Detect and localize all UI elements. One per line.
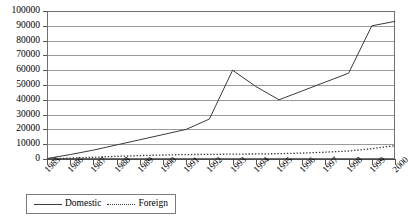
y-axis-tick-label: 10000	[16, 139, 40, 149]
y-axis-tick-label: 70000	[16, 51, 40, 61]
series-layer	[47, 11, 395, 159]
legend-swatch-dotted-icon	[107, 200, 135, 208]
series-line-domestic	[47, 21, 395, 158]
y-axis-tick-label: 100000	[12, 6, 41, 16]
legend-label: Foreign	[138, 199, 168, 209]
y-axis-tick-label: 40000	[16, 95, 40, 105]
y-axis: 1000009000080000700006000050000400003000…	[0, 0, 45, 170]
legend-item-foreign[interactable]: Foreign	[107, 199, 168, 209]
y-axis-tick-label: 0	[35, 154, 40, 164]
y-axis-tick-label: 30000	[16, 110, 40, 120]
legend-label: Domestic	[65, 199, 101, 209]
legend-item-domestic[interactable]: Domestic	[34, 199, 101, 209]
chart-legend: DomesticForeign	[26, 194, 176, 214]
y-axis-tick-label: 50000	[16, 80, 40, 90]
line-chart: 1000009000080000700006000050000400003000…	[0, 0, 414, 218]
legend-swatch-solid-icon	[34, 200, 62, 208]
y-axis-tick-label: 90000	[16, 21, 40, 31]
y-axis-tick-label: 60000	[16, 65, 40, 75]
y-axis-tick-label: 20000	[16, 125, 40, 135]
y-axis-tick-label: 80000	[16, 36, 40, 46]
